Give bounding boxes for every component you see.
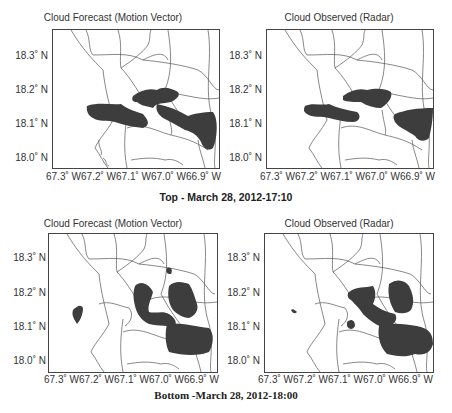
x-tick-labels: 67.3˚ W67.2˚ W67.1˚ W67.0˚ W66.9˚ W — [260, 171, 435, 182]
y-tick-18-0: 18.0˚ N — [222, 152, 262, 163]
y-tick-18-2: 18.2˚ N — [8, 84, 48, 95]
caption-bottom: Bottom -March 28, 2012-18:00 — [0, 389, 452, 401]
panel-title: Cloud Forecast (Motion Vector) — [0, 12, 226, 23]
y-tick-18-3: 18.3˚ N — [8, 50, 48, 61]
y-tick-18-3: 18.3˚ N — [220, 252, 260, 263]
cloud-regions — [87, 88, 217, 150]
map-plot — [266, 29, 434, 169]
y-tick-18-1: 18.1˚ N — [6, 321, 46, 332]
y-tick-18-1: 18.1˚ N — [8, 118, 48, 129]
map-plot — [52, 29, 220, 169]
map-plot — [264, 233, 434, 373]
y-tick-18-2: 18.2˚ N — [222, 84, 262, 95]
y-tick-18-2: 18.2˚ N — [6, 287, 46, 298]
panel-top-left-forecast: Cloud Forecast (Motion Vector) 18.3˚ N 1… — [0, 0, 226, 185]
panel-title: Cloud Observed (Radar) — [226, 218, 452, 229]
y-tick-18-0: 18.0˚ N — [6, 355, 46, 366]
x-tick-labels: 67.3˚ W67.2˚ W67.1˚ W67.0˚ W66.9˚ W — [258, 374, 433, 385]
x-tick-labels: 67.3˚ W67.2˚ W67.1˚ W67.0˚ W66.9˚ W — [44, 374, 219, 385]
map-plot — [48, 233, 218, 373]
y-tick-18-3: 18.3˚ N — [6, 252, 46, 263]
cloud-regions — [72, 267, 212, 355]
panel-bottom-left-forecast: Cloud Forecast (Motion Vector) 18.3˚ N 1… — [0, 200, 226, 385]
panel-bottom-right-observed: Cloud Observed (Radar) 18.3˚ N 18.2˚ N 1… — [226, 200, 452, 385]
panel-top-right-observed: Cloud Observed (Radar) 18.3˚ N 18.2˚ N 1… — [226, 0, 452, 185]
y-tick-18-0: 18.0˚ N — [220, 355, 260, 366]
panel-title: Cloud Forecast (Motion Vector) — [0, 218, 226, 229]
y-tick-18-0: 18.0˚ N — [8, 152, 48, 163]
panel-title: Cloud Observed (Radar) — [226, 12, 452, 23]
x-tick-labels: 67.3˚ W67.2˚ W67.1˚ W67.0˚ W66.9˚ W — [46, 171, 221, 182]
y-tick-18-1: 18.1˚ N — [220, 321, 260, 332]
y-tick-18-1: 18.1˚ N — [222, 118, 262, 129]
y-tick-18-3: 18.3˚ N — [222, 50, 262, 61]
y-tick-18-2: 18.2˚ N — [220, 287, 260, 298]
cloud-regions — [291, 280, 433, 356]
cloud-regions — [304, 89, 433, 141]
